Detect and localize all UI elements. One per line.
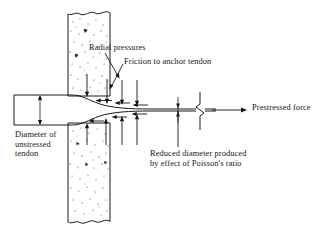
- concrete-block-upper: [68, 12, 110, 96]
- concrete-stipple-lower: [69, 128, 108, 216]
- label-diameter-line-1: Diameter of: [15, 130, 56, 139]
- label-diameter-line-2: unstressed: [15, 140, 51, 149]
- concrete-aggregate-upper: [75, 29, 87, 57]
- radial-arrow-down: [85, 74, 89, 97]
- leader-friction: [110, 64, 123, 90]
- prestressed-force-arrow: [212, 107, 247, 112]
- concrete-block-lower: [68, 123, 110, 223]
- figure-canvas: Radial pressures Friction to anchor tend…: [0, 0, 328, 236]
- label-reduced-line-1: Reduced diameter produced: [150, 149, 246, 158]
- friction-arrow-left: [133, 103, 149, 107]
- diagram-svg: [0, 0, 328, 236]
- label-prestressed-force: Prestressed force: [252, 103, 311, 113]
- radial-arrow-up: [85, 123, 89, 145]
- prestressing-tendon: [14, 95, 216, 125]
- radial-arrow-up: [120, 116, 124, 145]
- label-reduced-line-2: by effect of Poisson's ratio: [150, 159, 242, 168]
- radial-arrow-down: [135, 80, 139, 106]
- reduced-diameter-dimension: [176, 97, 180, 147]
- label-friction-to-anchor-tendon: Friction to anchor tendon: [124, 57, 211, 67]
- friction-arrow-left: [112, 115, 128, 119]
- label-diameter-line-3: tendon: [15, 149, 38, 158]
- radial-arrow-up: [135, 114, 139, 145]
- label-reduced-diameter: Reduced diameter producedby effect of Po…: [150, 149, 246, 168]
- friction-arrow-left: [96, 98, 113, 102]
- unstressed-diameter-dimension: [38, 95, 42, 125]
- friction-arrow-left: [132, 112, 148, 116]
- radial-arrow-up: [104, 118, 108, 145]
- break-symbol: [196, 92, 204, 130]
- label-diameter-of-unstressed-tendon: Diameter ofunstressedtendon: [15, 130, 56, 159]
- concrete-aggregate-lower: [76, 142, 107, 166]
- radial-arrow-down: [120, 80, 124, 105]
- label-radial-pressures: Radial pressures: [89, 43, 146, 53]
